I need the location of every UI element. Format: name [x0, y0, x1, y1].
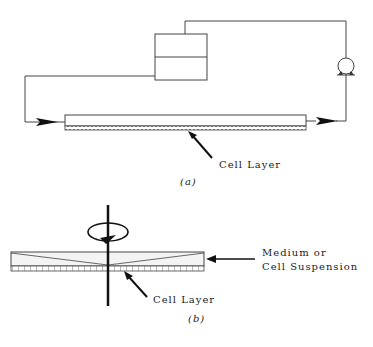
label-cell-suspension: Cell Suspension: [262, 261, 358, 272]
label-cell-layer-b: Cell Layer: [153, 294, 215, 305]
label-cell-layer-a: Cell Layer: [219, 159, 281, 170]
figure-a: Cell Layer (a): [25, 21, 355, 187]
figure-b: Medium or Cell Suspension Cell Layer (b): [11, 205, 358, 324]
caption-a: (a): [180, 176, 197, 187]
flow-channel: [65, 115, 306, 130]
return-tubing: [185, 21, 346, 58]
label-medium: Medium or: [262, 247, 327, 258]
diagram-canvas: Cell Layer (a) Medium or Cell Suspension…: [0, 0, 373, 347]
cell-layer-a: [65, 126, 306, 130]
pump-outlet-tubing: [336, 74, 346, 121]
outlet-arrow-icon: [316, 117, 338, 125]
medium-pointer-icon: [206, 255, 216, 263]
caption-b: (b): [188, 313, 205, 324]
pump-icon: [337, 58, 355, 75]
reservoir: [155, 34, 207, 80]
